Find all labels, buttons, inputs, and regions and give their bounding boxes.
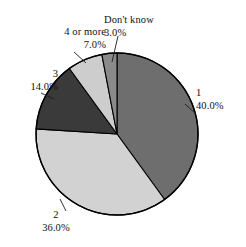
slice-label-four-or-more-name: 4 or more — [28, 26, 106, 39]
slice-label-three-name: 3 — [6, 68, 58, 81]
slice-label-dont-know-name: Don't know — [104, 14, 154, 27]
slice-label-three: 3 14.0% — [6, 68, 58, 93]
slice-label-two-value: 36.0% — [28, 222, 84, 235]
slice-label-one-name: 1 — [196, 87, 244, 100]
slice-label-four-or-more-value: 7.0% — [28, 39, 106, 52]
slice-label-three-value: 14.0% — [6, 81, 58, 94]
slice-label-two: 2 36.0% — [28, 209, 84, 234]
slice-label-two-name: 2 — [28, 209, 84, 222]
slice-label-four-or-more: 4 or more 7.0% — [28, 26, 106, 51]
slice-label-dont-know: Don't know 3.0% — [104, 14, 154, 39]
pie-chart: Don't know 3.0% 4 or more 7.0% 3 14.0% 1… — [0, 0, 246, 247]
pie-slices — [36, 53, 198, 215]
slice-label-dont-know-value: 3.0% — [104, 27, 154, 40]
slice-label-one-value: 40.0% — [196, 100, 244, 113]
slice-label-one: 1 40.0% — [196, 87, 244, 112]
